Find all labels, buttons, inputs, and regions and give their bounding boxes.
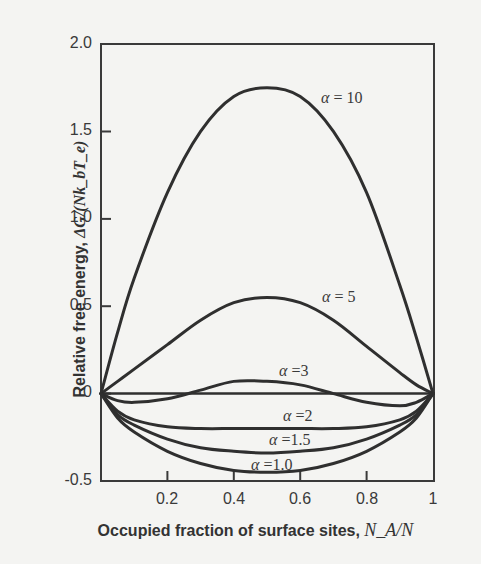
- x-tick-label: 0.8: [347, 490, 387, 508]
- plot-frame: [101, 44, 434, 481]
- curve-label-alpha-3: α =3: [279, 362, 308, 380]
- y-tick-label: 2.0: [52, 34, 92, 52]
- curve--10: [101, 88, 433, 394]
- curve--2: [101, 394, 433, 429]
- curve-label-alpha-2: α =2: [283, 407, 312, 425]
- curves: [101, 88, 433, 473]
- y-ticks: [101, 132, 111, 394]
- x-tick-label: 0.4: [214, 490, 254, 508]
- curve-label-alpha-1-0: α =1.0: [251, 456, 292, 474]
- x-axis-label: Occupied fraction of surface sites, N_A/…: [30, 520, 481, 541]
- y-axis-label: Relative free energy, ΔG/(Nk_bT_e): [71, 59, 89, 479]
- curve--5: [101, 297, 433, 393]
- x-tick-label: 0.2: [147, 490, 187, 508]
- x-tick-label: 0.6: [280, 490, 320, 508]
- curve-label-alpha-5: α = 5: [322, 288, 355, 306]
- curve-label-alpha-1-5: α =1.5: [269, 431, 310, 449]
- x-tick-label: 1: [413, 490, 453, 508]
- curve-label-alpha-10: α = 10: [321, 89, 362, 107]
